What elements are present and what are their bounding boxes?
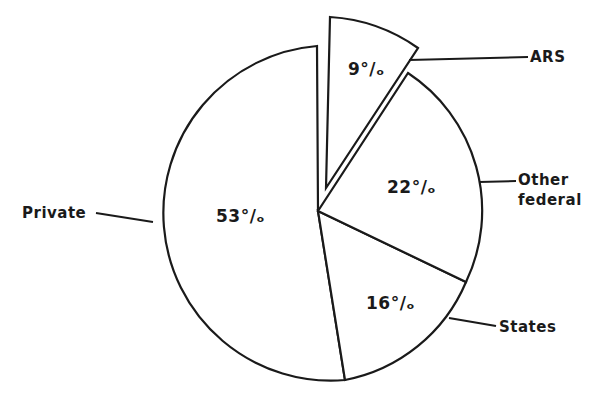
pct-ars: 9°/ₒ — [348, 59, 385, 79]
leader-states — [449, 318, 496, 326]
label-ars: ARS — [530, 48, 565, 66]
pct-states: 16°/ₒ — [366, 293, 415, 313]
leader-other-federal — [479, 181, 516, 182]
label-other-federal-line2: federal — [518, 191, 582, 209]
pct-other-federal: 22°/ₒ — [387, 177, 436, 197]
leader-ars — [409, 57, 528, 60]
label-states: States — [499, 318, 556, 336]
label-private: Private — [22, 204, 86, 222]
pct-private: 53°/ₒ — [216, 206, 265, 226]
label-other-federal-line1: Other — [518, 171, 569, 189]
pie-chart: 9°/ₒ 22°/ₒ 16°/ₒ 53°/ₒ ARS Other federal… — [0, 0, 612, 400]
leader-private — [96, 213, 153, 222]
